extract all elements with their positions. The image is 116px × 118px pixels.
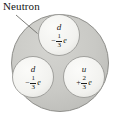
left-down-quark-circle xyxy=(13,57,54,98)
top-down-quark-circle xyxy=(39,15,80,56)
right-up-quark-circle xyxy=(64,57,105,98)
neutron-diagram-canvas xyxy=(0,0,116,118)
neutron-label: Neutron xyxy=(3,0,40,12)
neutron-quark-diagram: Neutron d − 1 3 e d − 1 3 e u + xyxy=(0,0,116,118)
